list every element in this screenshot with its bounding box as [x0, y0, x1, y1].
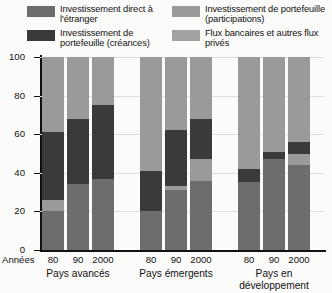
x-axis-tick-label: 2000: [183, 254, 219, 265]
bar-segment-flux_bancaires: [288, 57, 310, 142]
x-axis-labels: Années 809020008090200080902000Pays avan…: [0, 252, 332, 293]
bar-segment-flux_bancaires: [263, 57, 285, 152]
legend-column-left: Investissement direct à l'étranger Inves…: [27, 4, 172, 52]
bar: [140, 57, 162, 250]
bar-segment-portefeuille_creances: [42, 132, 64, 200]
legend-column-right: Investissement de portefeuille (particip…: [172, 4, 332, 52]
legend-item-ide: Investissement direct à l'étranger: [27, 4, 172, 25]
legend-swatch-creances: [27, 30, 55, 41]
y-axis-tick-label: 20: [14, 205, 25, 216]
bar-segment-portefeuille_creances: [238, 169, 260, 183]
bar: [190, 57, 212, 250]
legend-label-creances: Investissement de portefeuille (créances…: [60, 28, 172, 49]
bar-segment-portefeuille_participations: [288, 154, 310, 166]
legend-swatch-participations: [172, 6, 200, 17]
y-axis-tick: 40: [34, 173, 40, 174]
bar-segment-ide: [165, 190, 187, 250]
bar-segment-ide: [92, 179, 114, 250]
legend-item-creances: Investissement de portefeuille (créances…: [27, 28, 172, 49]
bar-segment-flux_bancaires: [190, 57, 212, 119]
bar-segment-flux_bancaires: [67, 57, 89, 119]
legend-item-bancaires: Flux bancaires et autres flux privés: [172, 28, 332, 49]
bar: [67, 57, 89, 250]
bar-segment-portefeuille_creances: [288, 142, 310, 154]
bar-segment-portefeuille_participations: [42, 200, 64, 212]
bar-segment-ide: [263, 159, 285, 250]
bar-segment-portefeuille_creances: [67, 119, 89, 185]
y-axis-tick-label: 40: [14, 167, 25, 178]
bar-segment-ide: [140, 211, 162, 250]
chart-container: Investissement direct à l'étranger Inves…: [0, 0, 332, 293]
bar-segment-ide: [238, 182, 260, 250]
bar-segment-ide: [42, 211, 64, 250]
y-axis-tick: 60: [34, 134, 40, 135]
plot-area: 020406080100: [40, 57, 324, 250]
bar: [238, 57, 260, 250]
legend-swatch-ide: [27, 6, 55, 17]
y-axis-tick: 80: [34, 96, 40, 97]
x-axis-origin-label: Années: [2, 254, 35, 265]
legend-label-ide: Investissement direct à l'étranger: [60, 4, 172, 25]
legend-label-bancaires: Flux bancaires et autres flux privés: [205, 28, 332, 49]
bar: [42, 57, 64, 250]
bar: [288, 57, 310, 250]
bar-segment-ide: [190, 181, 212, 250]
bar-segment-portefeuille_participations: [190, 159, 212, 180]
y-axis-tick: 0: [34, 250, 40, 251]
bar: [92, 57, 114, 250]
bar-segment-flux_bancaires: [238, 57, 260, 169]
y-axis-tick-label: 60: [14, 128, 25, 139]
bar-segment-flux_bancaires: [140, 57, 162, 171]
bar-segment-portefeuille_creances: [92, 105, 114, 178]
x-axis-tick-label: 2000: [85, 254, 121, 265]
y-axis-tick: 20: [34, 211, 40, 212]
legend-item-participations: Investissement de portefeuille (particip…: [172, 4, 332, 25]
legend-label-participations: Investissement de portefeuille (particip…: [205, 4, 332, 25]
x-axis-tick-label: 2000: [281, 254, 317, 265]
bar-segment-portefeuille_creances: [140, 171, 162, 212]
x-axis-group-label: Pays endéveloppement: [214, 268, 332, 291]
y-axis-tick-label: 80: [14, 90, 25, 101]
bar: [263, 57, 285, 250]
bar-segment-portefeuille_creances: [190, 119, 212, 160]
chart-legend: Investissement direct à l'étranger Inves…: [0, 0, 332, 52]
bar-segment-portefeuille_creances: [263, 152, 285, 160]
bar: [165, 57, 187, 250]
y-axis-tick: 100: [34, 57, 40, 58]
y-axis-tick-label: 100: [9, 51, 25, 62]
legend-swatch-bancaires: [172, 30, 200, 41]
bar-segment-ide: [67, 184, 89, 250]
bar-segment-flux_bancaires: [42, 57, 64, 132]
bar-segment-flux_bancaires: [92, 57, 114, 105]
bar-segment-ide: [288, 165, 310, 250]
bar-segment-flux_bancaires: [165, 57, 187, 130]
bar-segment-portefeuille_creances: [165, 130, 187, 186]
